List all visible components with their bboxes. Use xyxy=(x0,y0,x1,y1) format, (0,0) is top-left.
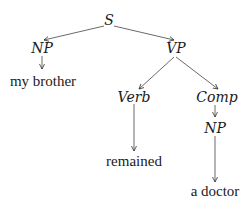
edge-s-np xyxy=(44,26,104,40)
node-comp: Comp xyxy=(196,90,237,104)
node-vp: VP xyxy=(166,41,186,55)
syntax-tree-diagram: S NP my brother VP Verb remained Comp NP… xyxy=(0,0,250,209)
node-verb: Verb xyxy=(118,90,151,104)
node-np-subject: NP xyxy=(31,41,53,55)
edge-vp-verb xyxy=(139,57,174,89)
word-my-brother: my brother xyxy=(10,74,76,89)
node-s: S xyxy=(104,13,114,27)
word-a-doctor: a doctor xyxy=(191,184,240,199)
word-remained: remained xyxy=(106,154,162,169)
edge-vp-comp xyxy=(176,57,218,89)
edge-s-vp xyxy=(114,26,174,40)
node-np-complement: NP xyxy=(204,121,226,135)
